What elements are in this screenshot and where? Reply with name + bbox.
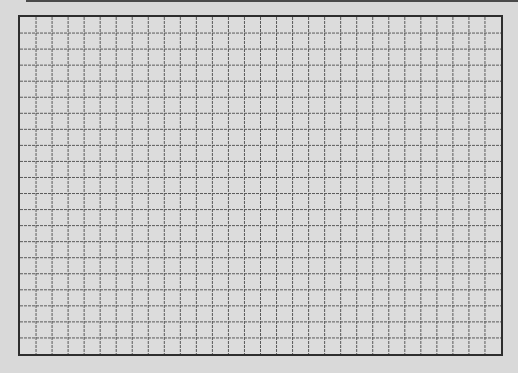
graph-paper-grid	[18, 15, 503, 356]
top-edge-line	[26, 0, 518, 2]
grid-lines	[20, 17, 501, 354]
